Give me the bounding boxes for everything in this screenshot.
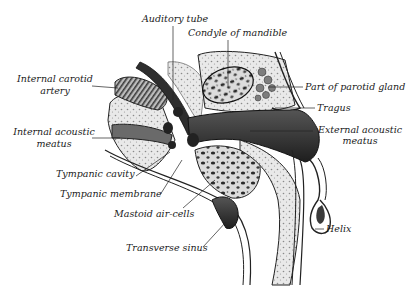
label-mastoid-air-cells: Mastoid air-cells xyxy=(114,209,194,219)
label-tympanic-cavity: Tympanic cavity xyxy=(56,169,135,179)
label-external-acoustic-meatus-line2: meatus xyxy=(315,136,405,146)
ear-anatomy-diagram: Auditory tube Condyle of mandible Intern… xyxy=(0,0,420,297)
label-internal-acoustic-meatus-line2: meatus xyxy=(10,139,98,149)
label-auditory-tube: Auditory tube xyxy=(142,14,208,24)
label-internal-acoustic-meatus-line1: Internal acoustic xyxy=(10,127,98,137)
label-internal-carotid-artery-line2: artery xyxy=(14,86,96,96)
label-part-of-parotid-gland: Part of parotid gland xyxy=(305,82,405,92)
label-helix: Helix xyxy=(326,224,351,234)
label-internal-carotid-artery-line1: Internal carotid xyxy=(14,74,96,84)
label-tragus: Tragus xyxy=(317,103,351,113)
label-tympanic-membrane: Tympanic membrane xyxy=(60,189,162,199)
label-external-acoustic-meatus-line1: External acoustic xyxy=(315,125,405,135)
label-transverse-sinus: Transverse sinus xyxy=(126,243,208,253)
label-condyle-of-mandible: Condyle of mandible xyxy=(188,28,287,38)
